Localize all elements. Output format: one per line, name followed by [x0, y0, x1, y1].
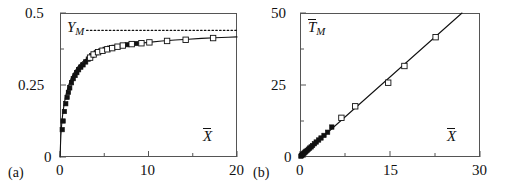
- panel-b-tag: (b): [253, 166, 269, 180]
- panel-a-y-axis-title-subscript: M: [75, 25, 84, 37]
- panel-a-x-axis-title-symbol: X: [203, 129, 212, 144]
- panel-a-xtick-label-1: 10: [140, 163, 155, 178]
- panel-b-x-axis-title-symbol: X: [447, 129, 456, 144]
- panel-b-ytick-label-1: 25: [271, 78, 286, 93]
- panel-a-xtick-label-2: 20: [229, 163, 244, 178]
- panel-b-y-axis-title: TM: [308, 20, 325, 37]
- panel-a-xtick-label-0: 0: [56, 163, 64, 178]
- panel-b-ytick-label-0: 50: [271, 6, 286, 21]
- panel-b-xtick-label-0: 0: [296, 163, 304, 178]
- panel-a-x-axis-title: X: [203, 129, 212, 144]
- panel-b-y-axis-title-symbol: T: [308, 20, 316, 35]
- panel-b-y-overbar: [308, 19, 315, 20]
- panel-a-y-axis-title-symbol: Y: [67, 20, 75, 35]
- panel-a-ytick-label-0: 0.5: [25, 6, 44, 21]
- panel-b-xtick-label-2: 30: [472, 163, 487, 178]
- panel-a-y-axis-title: YM: [67, 20, 84, 37]
- panel-b-x-overbar: [447, 128, 455, 129]
- figure-root: 0.5 0.25 0 0 10 20 YM X (a) 50 25 0 0 15…: [0, 0, 505, 190]
- panel-a-ytick-label-1: 0.25: [18, 78, 44, 93]
- panel-b-ytick-label-2: 0: [284, 150, 292, 165]
- panel-a-ytick-label-2: 0: [44, 150, 52, 165]
- panel-b-xtick-label-1: 15: [383, 163, 398, 178]
- panel-a-tag: (a): [8, 166, 24, 180]
- panel-b-x-axis-title: X: [447, 129, 456, 144]
- panel-a-x-overbar: [203, 128, 211, 129]
- panel-b-y-axis-title-subscript: M: [316, 25, 325, 37]
